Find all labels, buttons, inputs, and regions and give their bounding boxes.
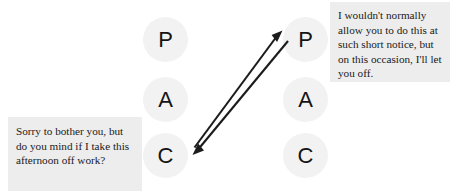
ego-state-label: P xyxy=(298,29,313,51)
ego-state-label: A xyxy=(298,89,313,111)
caption-request-text: Sorry to bother you, but do you mind if … xyxy=(16,124,134,168)
ego-state-other-adult: A xyxy=(283,77,328,122)
ego-state-column-self: P A C xyxy=(143,0,189,196)
caption-response-text: I wouldn't normally allow you to do this… xyxy=(338,8,444,81)
response-arrow-icon xyxy=(193,41,289,155)
ego-state-label: P xyxy=(158,29,173,51)
ego-state-other-child: C xyxy=(283,133,328,178)
ego-state-label: A xyxy=(158,89,173,111)
stimulus-arrow-icon xyxy=(195,31,283,148)
ego-state-label: C xyxy=(158,145,174,167)
ego-state-self-child: C xyxy=(143,133,188,178)
ego-state-self-parent: P xyxy=(143,17,188,62)
ego-state-other-parent: P xyxy=(283,17,328,62)
ego-state-column-other: P A C xyxy=(283,0,329,196)
caption-request: Sorry to bother you, but do you mind if … xyxy=(8,117,142,191)
transaction-diagram: P A C P A C Sorry to bo xyxy=(0,0,450,196)
caption-response: I wouldn't normally allow you to do this… xyxy=(330,2,450,82)
ego-state-label: C xyxy=(298,145,314,167)
ego-state-self-adult: A xyxy=(143,77,188,122)
